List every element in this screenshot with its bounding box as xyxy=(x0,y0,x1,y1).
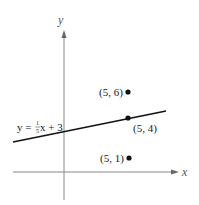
x-axis-arrow-icon xyxy=(171,170,179,175)
slope-denominator: 5 xyxy=(36,128,39,134)
slope-numerator: 1 xyxy=(36,120,39,126)
equation-suffix: x + 3 xyxy=(40,121,63,133)
point-label-5-1: (5, 1) xyxy=(100,152,124,165)
y-axis-label: y xyxy=(57,13,64,27)
x-axis-label: x xyxy=(181,165,188,179)
point-label-5-4: (5, 4) xyxy=(133,122,157,135)
coordinate-plane: y x y = 1 5 x + 3 (5, 6) (5, 4) (5, 1) xyxy=(0,0,199,205)
point-5-4 xyxy=(125,115,130,120)
equation-label: y = 1 5 x + 3 xyxy=(17,120,63,134)
y-axis-arrow-icon xyxy=(62,30,67,38)
point-5-6 xyxy=(125,89,130,94)
equation-prefix: y = xyxy=(17,121,31,133)
point-label-5-6: (5, 6) xyxy=(99,86,123,99)
point-5-1 xyxy=(126,155,131,160)
